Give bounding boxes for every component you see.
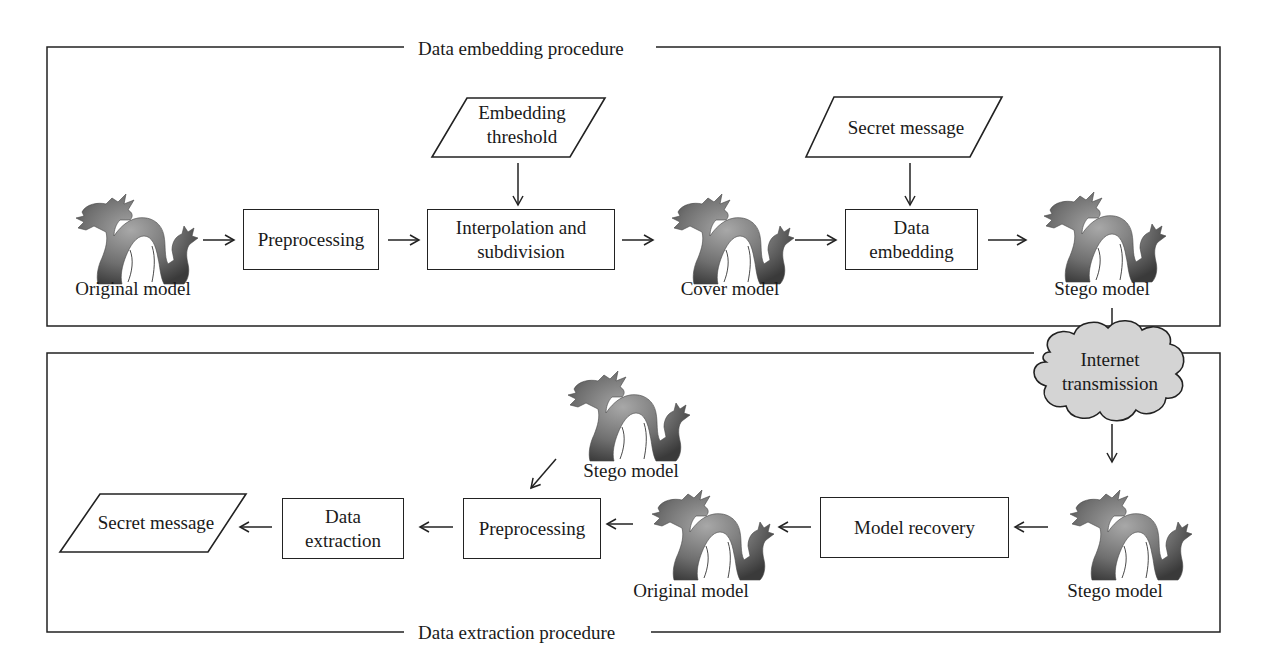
data-embedding-line1: Data (894, 216, 930, 240)
interpolation-line1: Interpolation and (456, 216, 586, 240)
dragon-original-model-recovered-icon (652, 490, 774, 580)
data-extraction-box: Data extraction (282, 498, 404, 559)
dragon-stego-model-side-icon (568, 371, 690, 461)
internet-line2: transmission (1040, 372, 1180, 396)
interpolation-subdivision-box: Interpolation and subdivision (427, 209, 615, 270)
embedding-threshold-line1: Embedding (462, 101, 582, 125)
extraction-section-title: Data extraction procedure (410, 622, 623, 644)
diagram-canvas (0, 0, 1261, 668)
preprocessing-label: Preprocessing (258, 228, 365, 252)
data-embedding-box: Data embedding (845, 209, 978, 270)
data-extraction-line1: Data (325, 505, 361, 529)
extraction-preprocessing-label: Preprocessing (479, 517, 586, 541)
model-recovery-box: Model recovery (820, 497, 1009, 558)
model-recovery-label: Model recovery (854, 516, 975, 540)
recovered-original-model-label: Original model (616, 580, 766, 602)
received-stego-model-label: Stego model (1040, 580, 1190, 602)
data-extraction-line2: extraction (305, 529, 381, 553)
embedding-section-title: Data embedding procedure (410, 38, 632, 60)
cover-model-label: Cover model (655, 278, 805, 300)
internet-line1: Internet (1040, 348, 1180, 372)
dragon-original-model-icon (76, 194, 198, 284)
dragon-cover-model-icon (672, 194, 794, 284)
data-embedding-line2: embedding (869, 240, 953, 264)
extraction-preprocessing-box: Preprocessing (463, 498, 601, 559)
dragon-stego-model-received-icon (1070, 490, 1192, 580)
embedding-threshold-line2: threshold (462, 125, 582, 149)
embedding-threshold-label: Embedding threshold (462, 101, 582, 149)
internet-transmission-label: Internet transmission (1040, 348, 1180, 396)
stego-model-label: Stego model (1027, 278, 1177, 300)
secret-message-bottom-label: Secret message (86, 511, 226, 535)
side-stego-model-label: Stego model (566, 460, 696, 482)
secret-message-top-label: Secret message (836, 116, 976, 140)
preprocessing-box: Preprocessing (243, 209, 379, 270)
interpolation-line2: subdivision (477, 240, 565, 264)
dragon-stego-model-icon (1044, 192, 1166, 282)
original-model-label: Original model (58, 278, 208, 300)
